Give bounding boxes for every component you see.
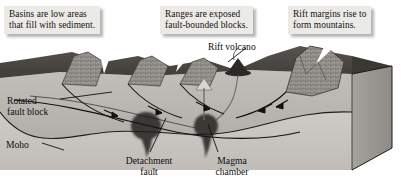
label-rift-volcano: Rift volcano xyxy=(208,41,256,52)
block-right-face xyxy=(352,66,392,170)
label-magma-chamber: Magma chamber xyxy=(196,155,268,177)
label-rotated-fault-block: Rotated fault block xyxy=(7,95,48,117)
rift-volcano-shape xyxy=(225,48,251,76)
callout-rift-margins: Rift margins rise to form mountains. xyxy=(288,6,371,34)
label-detachment-fault: Detachment fault xyxy=(110,155,188,177)
label-moho: Moho xyxy=(6,139,29,150)
callout-basins: Basins are low areas that fill with sedi… xyxy=(4,6,100,34)
callout-ranges: Ranges are exposed fault-bounded blocks. xyxy=(160,6,253,34)
figure-canvas: Basins are low areas that fill with sedi… xyxy=(0,0,401,187)
